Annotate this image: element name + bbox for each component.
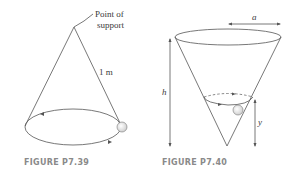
direction-arrow-icon xyxy=(108,140,112,144)
arrowhead-icon xyxy=(169,38,172,42)
cone-side-right xyxy=(227,37,281,146)
support-leader-line xyxy=(74,14,93,27)
level-label: y xyxy=(257,117,262,127)
cone-side-left xyxy=(175,37,227,146)
cone-rim xyxy=(175,29,281,45)
arrowhead-icon xyxy=(254,143,257,147)
arrowhead-icon xyxy=(277,23,281,26)
length-label: 1 m xyxy=(99,67,113,77)
circular-path xyxy=(25,109,121,145)
direction-arrow-icon xyxy=(40,112,44,116)
direction-arrow-icon xyxy=(218,103,222,106)
ball xyxy=(233,105,243,115)
arrowhead-icon xyxy=(254,99,257,103)
inner-path-back xyxy=(204,94,253,98)
support-label-line1: Point of xyxy=(95,9,124,19)
figure-p7-39: Point of support 1 m FIGURE P7.39 xyxy=(24,9,127,167)
pendulum-string xyxy=(74,27,120,123)
inner-path-front xyxy=(204,97,253,105)
arrowhead-icon xyxy=(228,23,232,26)
figure-caption: FIGURE P7.40 xyxy=(162,158,227,167)
radius-label: a xyxy=(252,12,257,22)
figure-caption: FIGURE P7.39 xyxy=(24,158,89,167)
height-label: h xyxy=(162,87,167,97)
figures-canvas: Point of support 1 m FIGURE P7.39 a h xyxy=(0,0,293,173)
ball xyxy=(117,122,127,132)
arrowhead-icon xyxy=(169,143,172,147)
figure-p7-40: a h y FIGURE P7.40 xyxy=(162,12,281,167)
direction-arrow-icon xyxy=(232,93,236,96)
support-label-line2: support xyxy=(97,20,124,30)
